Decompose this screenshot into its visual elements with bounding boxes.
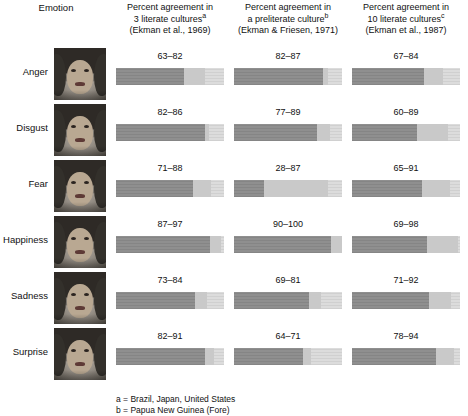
- bar-fill: [116, 124, 205, 141]
- bar-range-label: 90–100: [234, 219, 342, 229]
- bar-fill: [116, 292, 195, 309]
- bar-range-label: 67–84: [352, 51, 460, 61]
- bar-cell: 67–84: [352, 46, 460, 102]
- bar-fill: [234, 348, 303, 365]
- bar-fill-upper-range: [195, 292, 207, 309]
- emotion-label: Anger: [0, 66, 48, 77]
- bar-fill-upper-range: [317, 124, 330, 141]
- bar-track: [116, 292, 224, 309]
- bar-fill: [352, 292, 429, 309]
- bar-fill: [352, 68, 424, 85]
- bar-track: [352, 124, 460, 141]
- chart-row: Sadness73–8469–8171–92: [0, 270, 468, 326]
- bar-cell: 82–91: [116, 326, 224, 382]
- bar-fill-upper-range: [424, 68, 442, 85]
- bar-fill-upper-range: [417, 124, 448, 141]
- bar-cell: 71–88: [116, 158, 224, 214]
- bar-fill-upper-range: [331, 236, 342, 253]
- bar-fill-upper-range: [210, 236, 221, 253]
- bar-fill-upper-range: [436, 348, 453, 365]
- bar-fill: [116, 68, 184, 85]
- bar-cell: 28–87: [234, 158, 342, 214]
- bar-fill-upper-range: [429, 292, 452, 309]
- bar-fill: [116, 236, 210, 253]
- header-column-1: Percent agreement in 3 literate cultures…: [116, 2, 224, 37]
- chart-row: Anger63–8282–8767–84: [0, 46, 468, 102]
- emotion-label: Happiness: [0, 234, 48, 245]
- face-photo: [54, 272, 106, 324]
- bar-fill: [116, 180, 193, 197]
- bar-range-label: 82–86: [116, 107, 224, 117]
- bar-track: [116, 180, 224, 197]
- bar-range-label: 63–82: [116, 51, 224, 61]
- header-column-1-line1: Percent agreement in: [127, 2, 213, 12]
- bar-fill: [234, 180, 264, 197]
- face-photo: [54, 328, 106, 380]
- bar-range-label: 82–87: [234, 51, 342, 61]
- header-emotion-label: Emotion: [0, 2, 112, 13]
- bar-cell: 82–86: [116, 102, 224, 158]
- chart-row: Fear71–8828–8765–91: [0, 158, 468, 214]
- header-column-2-line1: Percent agreement in: [245, 2, 331, 12]
- bar-cell: 60–89: [352, 102, 460, 158]
- header-column-2-line2: a preliterate culture: [248, 14, 325, 24]
- bar-fill: [352, 236, 427, 253]
- bar-track: [352, 348, 460, 365]
- bar-fill: [352, 124, 417, 141]
- bar-fill: [352, 348, 436, 365]
- bar-fill: [116, 348, 205, 365]
- bar-range-label: 71–88: [116, 163, 224, 173]
- bar-fill-upper-range: [303, 348, 311, 365]
- bar-track: [352, 68, 460, 85]
- bar-cell: 77–89: [234, 102, 342, 158]
- bar-fill-upper-range: [264, 180, 328, 197]
- bar-fill-upper-range: [205, 124, 209, 141]
- bar-fill-upper-range: [309, 292, 322, 309]
- bar-cell: 73–84: [116, 270, 224, 326]
- header-column-3-sup: c: [441, 12, 445, 19]
- footnote-b: b = Papua New Guinea (Fore): [116, 405, 466, 416]
- bar-cell: 69–81: [234, 270, 342, 326]
- bar-range-label: 87–97: [116, 219, 224, 229]
- face-photo: [54, 216, 106, 268]
- bar-range-label: 69–81: [234, 275, 342, 285]
- header-column-3-line1: Percent agreement in: [363, 2, 449, 12]
- header-column-2: Percent agreement in a preliterate cultu…: [234, 2, 342, 37]
- header-column-3-line3: (Ekman et al., 1987): [365, 25, 446, 35]
- bar-range-label: 65–91: [352, 163, 460, 173]
- bar-track: [234, 236, 342, 253]
- emotion-label: Surprise: [0, 346, 48, 357]
- emotion-label: Sadness: [0, 290, 48, 301]
- header-column-1-line3: (Ekman et al., 1969): [129, 25, 210, 35]
- header-column-3: Percent agreement in 10 literate culture…: [352, 2, 460, 37]
- bar-track: [234, 68, 342, 85]
- bar-range-label: 69–98: [352, 219, 460, 229]
- bar-track: [116, 124, 224, 141]
- bar-fill: [234, 124, 317, 141]
- bar-range-label: 71–92: [352, 275, 460, 285]
- emotion-label: Disgust: [0, 122, 48, 133]
- bar-track: [234, 292, 342, 309]
- header-column-1-sup: a: [202, 12, 206, 19]
- figure-root: Emotion Percent agreement in 3 literate …: [0, 0, 468, 416]
- bar-track: [234, 180, 342, 197]
- bar-range-label: 28–87: [234, 163, 342, 173]
- face-photo: [54, 160, 106, 212]
- bar-fill: [234, 68, 323, 85]
- emotion-label: Fear: [0, 178, 48, 189]
- bar-track: [116, 236, 224, 253]
- bar-track: [116, 68, 224, 85]
- face-photo: [54, 48, 106, 100]
- bar-range-label: 73–84: [116, 275, 224, 285]
- bar-cell: 63–82: [116, 46, 224, 102]
- figure-header: Emotion Percent agreement in 3 literate …: [0, 0, 468, 46]
- bar-fill: [234, 292, 309, 309]
- bar-fill: [352, 180, 422, 197]
- bar-cell: 64–71: [234, 326, 342, 382]
- bar-cell: 87–97: [116, 214, 224, 270]
- bar-fill-upper-range: [184, 68, 205, 85]
- bar-track: [234, 348, 342, 365]
- bar-cell: 69–98: [352, 214, 460, 270]
- bar-fill-upper-range: [205, 348, 215, 365]
- bar-cell: 71–92: [352, 270, 460, 326]
